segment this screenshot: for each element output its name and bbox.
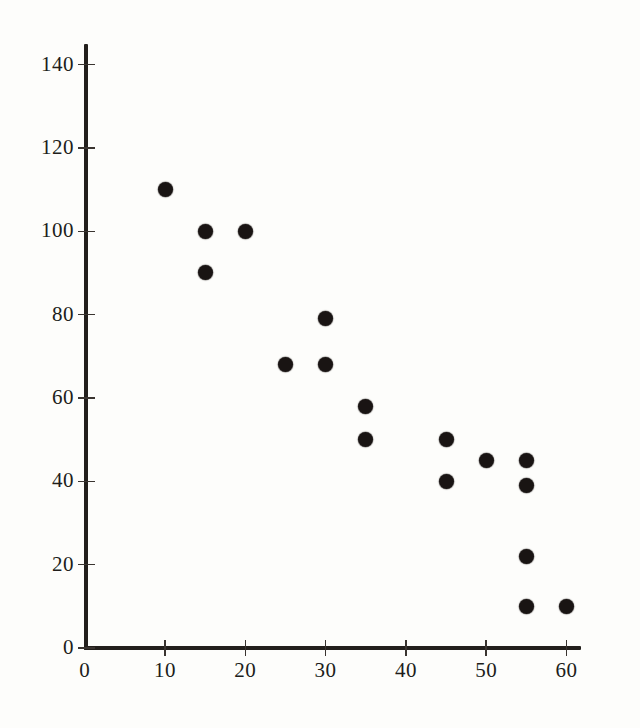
y-tick-label-100: 100 <box>4 220 74 241</box>
data-point <box>439 474 454 489</box>
data-point <box>358 399 373 414</box>
y-tick-label-60: 60 <box>4 387 74 408</box>
y-tick-60 <box>78 397 95 399</box>
x-axis-line <box>84 646 581 650</box>
data-point <box>519 453 534 468</box>
y-tick-label-40: 40 <box>4 470 74 491</box>
y-tick-label-0: 0 <box>4 637 74 658</box>
data-point <box>278 357 293 372</box>
y-tick-100 <box>78 231 95 233</box>
x-tick-label-0: 0 <box>55 660 115 681</box>
data-point <box>519 478 534 493</box>
data-point <box>318 357 333 372</box>
data-point <box>519 549 534 564</box>
scatter-plot: 020406080100120140 0102030405060 <box>0 0 640 728</box>
plot-area: 020406080100120140 0102030405060 <box>0 0 640 728</box>
y-tick-label-80: 80 <box>4 304 74 325</box>
data-point <box>519 599 534 614</box>
x-tick-label-50: 50 <box>456 660 516 681</box>
y-tick-20 <box>78 564 95 566</box>
y-tick-0 <box>78 647 95 649</box>
x-tick-60 <box>566 640 568 656</box>
data-point <box>358 432 373 447</box>
data-point <box>198 265 213 280</box>
data-point <box>559 599 574 614</box>
y-tick-label-140: 140 <box>4 54 74 75</box>
x-tick-label-60: 60 <box>537 660 597 681</box>
data-point <box>158 182 173 197</box>
y-tick-80 <box>78 314 95 316</box>
y-tick-label-120: 120 <box>4 137 74 158</box>
x-tick-10 <box>164 640 166 656</box>
x-tick-label-40: 40 <box>376 660 436 681</box>
data-point <box>238 224 253 239</box>
x-tick-50 <box>485 640 487 656</box>
x-tick-label-20: 20 <box>215 660 275 681</box>
data-point <box>479 453 494 468</box>
data-point <box>318 311 333 326</box>
data-point <box>439 432 454 447</box>
y-tick-40 <box>78 481 95 483</box>
x-tick-label-30: 30 <box>296 660 356 681</box>
y-tick-140 <box>78 64 95 66</box>
y-tick-label-20: 20 <box>4 554 74 575</box>
y-axis-line <box>84 44 88 650</box>
x-tick-30 <box>325 640 327 656</box>
x-tick-40 <box>405 640 407 656</box>
y-tick-120 <box>78 147 95 149</box>
x-tick-20 <box>245 640 247 656</box>
x-tick-label-10: 10 <box>135 660 195 681</box>
data-point <box>198 224 213 239</box>
